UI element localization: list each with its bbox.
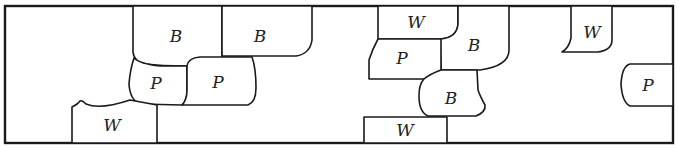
label-b-right: B — [253, 26, 267, 46]
region-b-right — [222, 6, 312, 56]
label-w-bottom-middle: W — [396, 120, 415, 140]
label-w-top-right: W — [583, 22, 602, 42]
label-w-bottom-left: W — [103, 115, 122, 135]
label-p-right: P — [211, 72, 224, 92]
label-b-middle-top: B — [467, 35, 481, 55]
label-b-middle-bottom: B — [444, 88, 458, 108]
label-b-left: B — [169, 26, 183, 46]
label-w-middle-top: W — [407, 12, 426, 32]
tile-diagram: B B P P W W P B B W W P — [0, 0, 678, 150]
label-p-middle: P — [395, 48, 408, 68]
label-p-right-edge: P — [641, 75, 654, 95]
label-p-left: P — [149, 73, 162, 93]
